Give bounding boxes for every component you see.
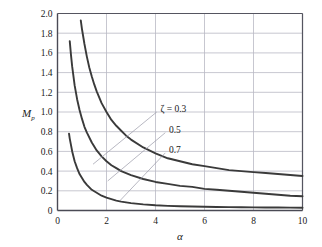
y-axis-tick-label: 0.2 (41, 186, 53, 196)
x-axis-tick-label: 6 (202, 216, 207, 226)
figure-container: 00.20.40.60.81.01.21.41.61.82.00246810Mp… (0, 0, 322, 247)
x-axis-title: α (177, 230, 183, 242)
y-axis-tick-label: 0 (48, 206, 53, 216)
x-axis-tick-label: 10 (298, 216, 308, 226)
chart-canvas: 00.20.40.60.81.01.21.41.61.82.00246810Mp… (0, 0, 322, 247)
y-axis-tick-label: 1.2 (41, 88, 53, 98)
series-annotation-label: 0.7 (169, 145, 181, 155)
y-axis-tick-label: 0.8 (41, 127, 53, 137)
x-axis-tick-label: 8 (251, 216, 256, 226)
series-annotation-label: 0.5 (169, 125, 181, 135)
x-axis-tick-label: 4 (153, 216, 158, 226)
x-axis-tick-label: 0 (55, 216, 60, 226)
y-axis-tick-label: 0.4 (41, 167, 53, 177)
x-axis-tick-label: 2 (104, 216, 109, 226)
series-annotation-label: ζ = 0.3 (160, 104, 186, 115)
y-axis-title: Mp (21, 107, 35, 122)
y-axis-tick-label: 1.0 (41, 107, 53, 117)
y-axis-tick-label: 1.6 (41, 48, 53, 58)
y-axis-tick-label: 1.8 (41, 29, 53, 39)
y-axis-tick-label: 1.4 (41, 68, 53, 78)
y-axis-tick-label: 2.0 (41, 9, 53, 19)
y-axis-tick-label: 0.6 (41, 147, 53, 157)
